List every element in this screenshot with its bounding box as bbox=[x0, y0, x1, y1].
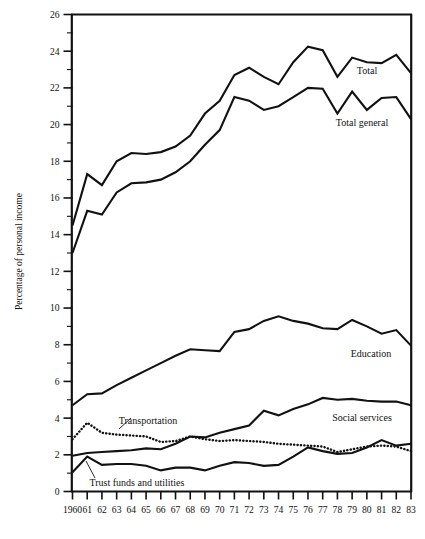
y-axis-tick-labels: 02468101214161820222426 bbox=[50, 9, 60, 497]
x-tick-label-1972: 72 bbox=[244, 504, 254, 515]
y-tick-label-12: 12 bbox=[50, 266, 60, 277]
x-tick-label-1976: 76 bbox=[303, 504, 313, 515]
y-axis-title: Percentage of personal income bbox=[14, 193, 24, 310]
x-tick-label-1966: 66 bbox=[156, 504, 166, 515]
y-tick-label-2: 2 bbox=[55, 449, 60, 460]
x-tick-label-1980: 80 bbox=[362, 504, 372, 515]
y-tick-label-22: 22 bbox=[50, 82, 60, 93]
x-tick-label-1974: 74 bbox=[274, 504, 284, 515]
x-tick-label-1981: 81 bbox=[377, 504, 387, 515]
x-tick-label-1977: 77 bbox=[318, 504, 328, 515]
x-tick-label-1962: 62 bbox=[97, 504, 107, 515]
series-label-trust-funds: Trust funds and utilities bbox=[90, 477, 185, 488]
y-tick-label-16: 16 bbox=[50, 192, 60, 203]
series-label-education: Education bbox=[351, 348, 392, 359]
x-tick-label-1970: 70 bbox=[215, 504, 225, 515]
series-line-total-general bbox=[73, 88, 412, 253]
x-tick-label-1964: 64 bbox=[127, 504, 137, 515]
x-axis-ticks bbox=[73, 492, 412, 500]
series-label-total-general: Total general bbox=[336, 117, 389, 128]
trust-funds-leader-line bbox=[86, 461, 95, 478]
y-tick-label-18: 18 bbox=[50, 156, 60, 167]
x-tick-label-1982: 82 bbox=[391, 504, 401, 515]
series-paths bbox=[73, 47, 412, 473]
y-tick-label-0: 0 bbox=[55, 486, 60, 497]
y-tick-label-26: 26 bbox=[50, 9, 60, 20]
y-tick-label-24: 24 bbox=[50, 46, 60, 57]
series-line-trust-funds-and-utilities bbox=[73, 440, 412, 472]
x-tick-label-1983: 83 bbox=[406, 504, 416, 515]
y-tick-label-20: 20 bbox=[50, 119, 60, 130]
x-tick-label-1963: 63 bbox=[112, 504, 122, 515]
series-label-transportation: Transportation bbox=[119, 415, 178, 426]
x-tick-label-1979: 79 bbox=[347, 504, 357, 515]
line-chart: Percentage of personal income 0246810121… bbox=[0, 0, 425, 539]
chart-figure: Percentage of personal income 0246810121… bbox=[0, 0, 425, 539]
y-tick-label-8: 8 bbox=[55, 339, 60, 350]
series-label-social-services: Social services bbox=[332, 412, 392, 423]
x-tick-label-1971: 71 bbox=[230, 504, 240, 515]
x-tick-label-1978: 78 bbox=[333, 504, 343, 515]
x-axis-tick-labels: 1960616263646566676869707172737475767778… bbox=[63, 504, 416, 515]
y-tick-label-6: 6 bbox=[55, 376, 60, 387]
y-axis-title-text: Percentage of personal income bbox=[14, 193, 24, 310]
y-tick-label-14: 14 bbox=[50, 229, 60, 240]
x-tick-label-1973: 73 bbox=[259, 504, 269, 515]
x-tick-label-1969: 69 bbox=[200, 504, 210, 515]
y-tick-label-4: 4 bbox=[55, 413, 60, 424]
x-tick-label-1960: 1960 bbox=[63, 504, 82, 515]
series-label-total: Total bbox=[357, 65, 378, 76]
x-tick-label-1968: 68 bbox=[185, 504, 195, 515]
x-tick-label-1967: 67 bbox=[171, 504, 181, 515]
y-tick-label-10: 10 bbox=[50, 302, 60, 313]
x-tick-label-1961: 61 bbox=[82, 504, 92, 515]
series-line-education bbox=[73, 316, 412, 405]
x-tick-label-1975: 75 bbox=[288, 504, 298, 515]
x-tick-label-1965: 65 bbox=[141, 504, 151, 515]
